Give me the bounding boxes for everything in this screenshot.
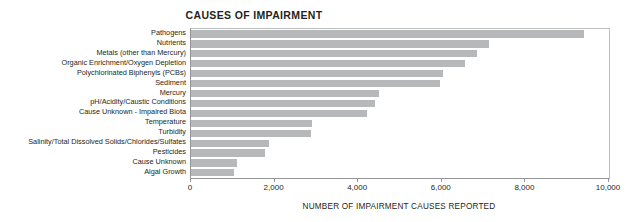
bar-row [191,138,609,148]
x-axis-title: NUMBER OF IMPAIRMENT CAUSES REPORTED [190,202,608,211]
bar-row [191,89,609,99]
bar [191,90,379,97]
tick-mark [524,178,525,182]
tick-label: 2,000 [264,183,284,192]
bar-row [191,29,609,39]
y-axis-category-labels: PathogensNutrientsMetals (other than Mer… [0,28,186,177]
category-label: pH/Acidity/Caustic Conditions [0,97,186,107]
bar-row [191,158,609,168]
bar [191,149,265,156]
x-axis-tick-marks [190,178,608,182]
bar-row [191,128,609,138]
bar-row [191,59,609,69]
bar-row [191,118,609,128]
category-label: Nutrients [0,38,186,48]
bar-row [191,69,609,79]
bar [191,159,237,166]
category-label: Organic Enrichment/Oxygen Depletion [0,58,186,68]
category-label: Algal Growth [0,167,186,177]
bar [191,80,440,87]
tick-mark [357,178,358,182]
category-label: Cause Unknown - Impaired Biota [0,107,186,117]
bar [191,110,367,117]
bar-row [191,49,609,59]
bar-row [191,148,609,158]
bar [191,70,443,77]
tick-label: 4,000 [347,183,367,192]
category-label: Temperature [0,117,186,127]
category-label: Pathogens [0,28,186,38]
bar [191,120,312,127]
bar [191,40,489,47]
plot-area [190,28,610,179]
chart-title: CAUSES OF IMPAIRMENT [0,9,508,21]
bar-row [191,108,609,118]
category-label: Salinity/Total Dissolved Solids/Chloride… [0,137,186,147]
tick-label: 6,000 [431,183,451,192]
chart-figure: CAUSES OF IMPAIRMENT PathogensNutrientsM… [0,0,629,222]
tick-label: 0 [188,183,192,192]
tick-mark [274,178,275,182]
category-label: Metals (other than Mercury) [0,48,186,58]
bar-series [191,29,609,178]
bar-row [191,168,609,178]
category-label: Sediment [0,78,186,88]
tick-mark [608,178,609,182]
bar [191,140,269,147]
category-label: Cause Unknown [0,157,186,167]
tick-label: 8,000 [514,183,534,192]
bar [191,30,584,37]
x-axis-tick-labels: 02,0004,0006,0008,00010,000 [0,183,629,195]
category-label: Polychlorinated Biphenyls (PCBs) [0,68,186,78]
bar [191,60,465,67]
tick-label: 10,000 [596,183,620,192]
category-label: Turbidity [0,127,186,137]
tick-mark [190,178,191,182]
bar [191,50,477,57]
category-label: Pesticides [0,147,186,157]
bar-row [191,79,609,89]
bar-row [191,39,609,49]
category-label: Mercury [0,88,186,98]
bar [191,100,375,107]
bar [191,169,234,176]
bar-row [191,98,609,108]
tick-mark [441,178,442,182]
bar [191,130,311,137]
